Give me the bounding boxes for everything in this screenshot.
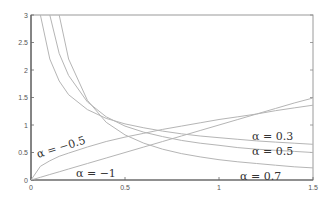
label-alpha-0.5: α = 0.5 bbox=[252, 145, 293, 158]
y-tick-label: 3 bbox=[24, 12, 28, 19]
line-chart: 00.511.522.53 00.511.5 α = −0.5 α = −1 α… bbox=[0, 0, 333, 204]
label-alpha-neg-0.5: α = −0.5 bbox=[35, 134, 87, 161]
x-tick-label: 1 bbox=[217, 184, 221, 191]
label-alpha-0.7: α = 0.7 bbox=[240, 170, 281, 183]
y-tick-label: 0 bbox=[24, 177, 28, 184]
label-alpha-neg-1: α = −1 bbox=[76, 167, 116, 180]
x-tick-label: 0 bbox=[29, 184, 33, 191]
y-tick-label: 2.5 bbox=[18, 39, 28, 46]
x-tick-label: 0.5 bbox=[120, 184, 130, 191]
y-tick-label: 1.5 bbox=[18, 94, 28, 101]
label-alpha-0.3: α = 0.3 bbox=[252, 130, 293, 143]
y-tick-label: 1 bbox=[24, 122, 28, 129]
x-tick-label: 1.5 bbox=[308, 184, 318, 191]
y-tick-label: 0.5 bbox=[18, 149, 28, 156]
curve-series-2 bbox=[40, 15, 313, 144]
y-tick-label: 2 bbox=[24, 67, 28, 74]
